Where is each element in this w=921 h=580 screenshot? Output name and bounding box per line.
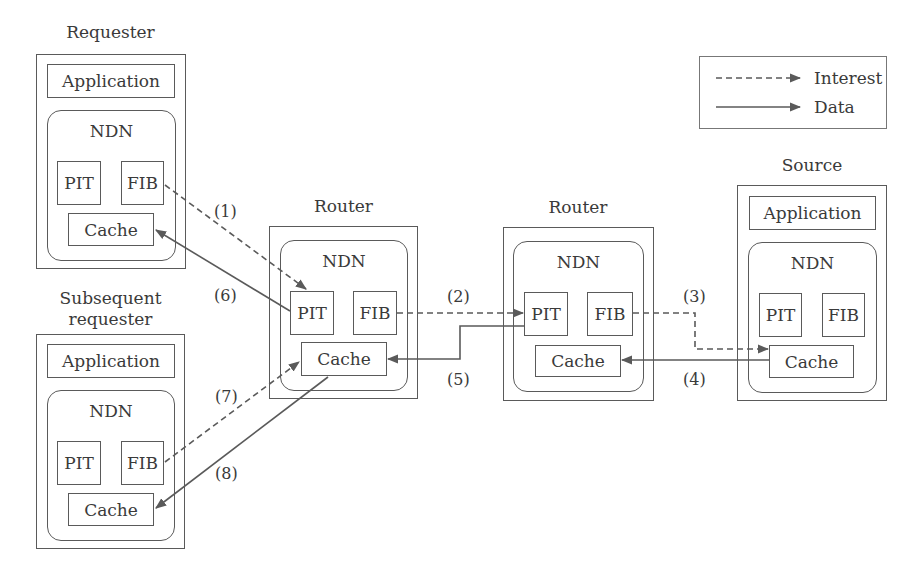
step-label-4: (4): [683, 370, 706, 389]
interest-arrow-1: [165, 185, 306, 289]
step-label-6: (6): [214, 286, 237, 305]
step-label-2: (2): [447, 287, 470, 306]
step-label-1: (1): [214, 202, 237, 221]
step-label-5: (5): [447, 370, 470, 389]
data-arrow-5: [388, 326, 524, 359]
step-label-7: (7): [215, 387, 238, 406]
data-arrow-8: [156, 377, 328, 508]
step-label-3: (3): [683, 287, 706, 306]
step-label-8: (8): [215, 464, 238, 483]
interest-arrow-7: [165, 362, 299, 462]
interest-arrow-3: [633, 313, 768, 349]
